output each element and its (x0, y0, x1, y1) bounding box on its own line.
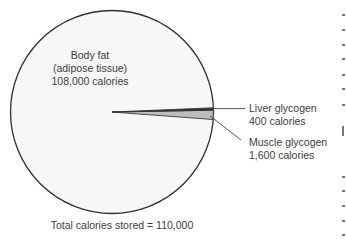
total-calories-caption: Total calories stored = 110,000 (42, 219, 202, 232)
label-liver-line2: 400 calories (249, 115, 317, 128)
label-body-fat-line3: 108,000 calories (40, 75, 140, 88)
label-muscle-line1: Muscle glycogen (249, 136, 327, 149)
label-body-fat-line2: (adipose tissue) (40, 62, 140, 75)
label-liver-line1: Liver glycogen (249, 102, 317, 115)
label-liver-glycogen: Liver glycogen 400 calories (249, 102, 317, 128)
label-body-fat: Body fat (adipose tissue) 108,000 calori… (40, 49, 140, 88)
label-muscle-line2: 1,600 calories (249, 149, 327, 162)
label-body-fat-line1: Body fat (40, 49, 140, 62)
label-muscle-glycogen: Muscle glycogen 1,600 calories (249, 136, 327, 162)
page-edge-text-fragment (339, 0, 346, 240)
leader-line-muscle (210, 116, 241, 140)
